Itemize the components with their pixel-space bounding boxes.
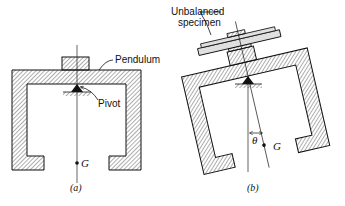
panel-b: θ G Unbalanced specimen (b) (171, 6, 332, 194)
top-block (62, 57, 89, 70)
pendulum-label: Pendulum (115, 54, 160, 65)
pendulum-balance-diagram: G Pendulum Pivot (a) (0, 0, 345, 206)
cg-label-b: G (273, 140, 281, 152)
center-of-gravity-dot (75, 161, 79, 165)
pendulum-frame-tilted (182, 48, 330, 174)
panel-a: G Pendulum Pivot (a) (12, 45, 160, 194)
caption-b: (b) (247, 182, 259, 194)
pivot-icon (71, 84, 83, 92)
specimen-label-line2: specimen (178, 17, 221, 28)
specimen-label-line1: Unbalanced (171, 6, 224, 17)
pivot-ground-b (235, 84, 262, 88)
pendulum-leader (99, 60, 113, 70)
caption-a: (a) (70, 182, 82, 194)
pivot-ground (63, 92, 91, 96)
cg-label: G (81, 157, 89, 169)
center-of-gravity-dot-b (262, 143, 266, 147)
theta-label: θ (252, 134, 258, 146)
pivot-label: Pivot (98, 98, 120, 109)
